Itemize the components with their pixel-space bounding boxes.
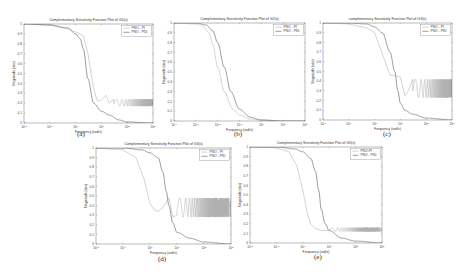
y-tick-label: 0.7 xyxy=(317,50,322,54)
caption-c: (c) xyxy=(383,130,391,138)
chart-title: complementary Sensitivity Function Plot … xyxy=(349,17,427,21)
series-line-pso-pid xyxy=(24,24,153,123)
y-tick-label: 0.3 xyxy=(90,213,95,217)
chart-panel-c: complementary Sensitivity Function Plot … xyxy=(305,0,467,140)
caption-d: (d) xyxy=(158,255,166,263)
series-line-pso-pid xyxy=(96,148,231,244)
y-tick-label: 0.4 xyxy=(90,204,95,208)
y-tick-label: 0.6 xyxy=(18,62,23,66)
y-tick-label: 0.1 xyxy=(18,111,23,115)
x-tick-label: 10-4 xyxy=(171,123,177,127)
chart-title: Complementary Sensitivity Function Plot … xyxy=(277,141,356,145)
y-tick-label: 0.3 xyxy=(317,89,322,93)
y-tick-label: 0.7 xyxy=(244,174,249,178)
chart-svg-c: complementary Sensitivity Function Plot … xyxy=(305,0,467,140)
y-tick-label: 0.2 xyxy=(90,223,95,227)
x-tick-label: 100 xyxy=(73,125,79,129)
y-tick-label: 0.8 xyxy=(244,164,249,168)
y-tick-label: 0.8 xyxy=(18,42,23,46)
y-tick-label: 0.2 xyxy=(317,99,322,103)
y-tick-label: 0.5 xyxy=(18,72,23,76)
x-tick-label: 102 xyxy=(125,125,131,129)
y-tick-label: 0.9 xyxy=(317,31,322,35)
y-tick-label: 0.4 xyxy=(317,79,322,83)
legend-label: PSO - PID xyxy=(132,30,148,34)
plot-area xyxy=(174,23,305,121)
y-axis-label: Magnitude (abs) xyxy=(238,183,242,208)
x-tick-label: 103 xyxy=(450,122,456,126)
x-tick-label: 102 xyxy=(202,246,208,250)
y-tick-label: 0.8 xyxy=(168,41,173,45)
x-tick-label: 101 xyxy=(99,125,105,129)
x-tick-label: 101 xyxy=(281,123,287,127)
y-tick-label: 0.6 xyxy=(317,60,322,64)
legend: PSO - PIPSO - PID xyxy=(421,25,451,36)
legend: PSO - PIPSO - PID xyxy=(200,150,230,161)
y-tick-label: 0.4 xyxy=(18,82,23,86)
y-tick-label: 1 xyxy=(170,21,172,25)
y-tick-label: 0.1 xyxy=(317,108,322,112)
y-tick-label: 1 xyxy=(319,21,321,25)
caption-a: (a) xyxy=(77,130,85,138)
chart-panel-b: Complementary Sensitivity Function Plot … xyxy=(155,0,310,140)
plot-area xyxy=(96,148,231,244)
y-axis-label: Magnitude (abs) xyxy=(12,61,16,86)
chart-title: Complementary Sensitivity Function Plot … xyxy=(200,17,279,21)
plot-area xyxy=(323,23,452,120)
x-tick-label: 10-1 xyxy=(47,125,53,129)
y-axis-label: Magnitude (abs) xyxy=(311,59,315,84)
y-tick-label: 0.8 xyxy=(317,41,322,45)
y-tick-label: 0.5 xyxy=(168,70,173,74)
y-tick-label: 0.6 xyxy=(168,60,173,64)
legend-label: PSO - PID xyxy=(284,29,300,33)
chart-title: Complementary Sensitivity Function Plot … xyxy=(124,142,203,146)
x-tick-label: 101 xyxy=(327,245,333,249)
legend-label: PSO - PID xyxy=(210,154,226,158)
y-tick-label: 0.7 xyxy=(90,175,95,179)
plot-area xyxy=(24,24,153,123)
y-axis-label: Magnitude (abs) xyxy=(84,184,88,209)
legend-label: PSO - PID xyxy=(431,29,447,33)
x-tick-label: 10-1 xyxy=(274,245,280,249)
x-tick-label: 100 xyxy=(259,123,265,127)
x-tick-label: 10-1 xyxy=(237,123,243,127)
x-tick-label: 101 xyxy=(175,246,181,250)
y-tick-label: 0.8 xyxy=(90,165,95,169)
y-tick-label: 0.1 xyxy=(168,109,173,113)
y-tick-label: 0.3 xyxy=(168,90,173,94)
x-tick-label: 100 xyxy=(300,245,306,249)
caption-b: (b) xyxy=(234,130,242,138)
chart-panel-e: Complementary Sensitivity Function Plot … xyxy=(235,140,405,280)
x-tick-label: 102 xyxy=(424,122,430,126)
y-tick-label: 0.7 xyxy=(18,52,23,56)
legend: PSO - PIPSO - PID xyxy=(274,25,304,36)
y-tick-label: 0.3 xyxy=(18,91,23,95)
y-tick-label: 1 xyxy=(20,22,22,26)
y-tick-label: 0.9 xyxy=(168,31,173,35)
y-tick-label: 0.2 xyxy=(168,100,173,104)
x-tick-label: 103 xyxy=(380,245,386,249)
series-line-pso-pi xyxy=(250,147,382,231)
y-tick-label: 0.4 xyxy=(244,203,249,207)
y-tick-label: 0.2 xyxy=(18,101,23,105)
x-tick-label: 103 xyxy=(229,246,235,250)
x-tick-label: 10-1 xyxy=(120,246,126,250)
x-tick-label: 10-1 xyxy=(346,122,352,126)
series-line-pso-pid xyxy=(323,23,452,120)
y-tick-label: 0.1 xyxy=(90,233,95,237)
y-tick-label: 0.6 xyxy=(90,185,95,189)
x-tick-label: 10-3 xyxy=(193,123,199,127)
chart-svg-a: Complementary Sensitivity Function Plot … xyxy=(0,0,160,140)
x-tick-label: 10-2 xyxy=(247,245,253,249)
x-tick-label: 102 xyxy=(353,245,359,249)
x-tick-label: 10-2 xyxy=(215,123,221,127)
x-tick-label: 100 xyxy=(372,122,378,126)
x-tick-label: 10-2 xyxy=(93,246,99,250)
series-line-pso-pi xyxy=(174,23,305,121)
x-tick-label: 10-2 xyxy=(21,125,27,129)
y-axis-label: Magnitude (abs) xyxy=(162,60,166,85)
y-tick-label: 0.6 xyxy=(244,184,249,188)
x-tick-label: 100 xyxy=(148,246,154,250)
x-tick-label: 101 xyxy=(398,122,404,126)
caption-e: (e) xyxy=(314,253,322,261)
